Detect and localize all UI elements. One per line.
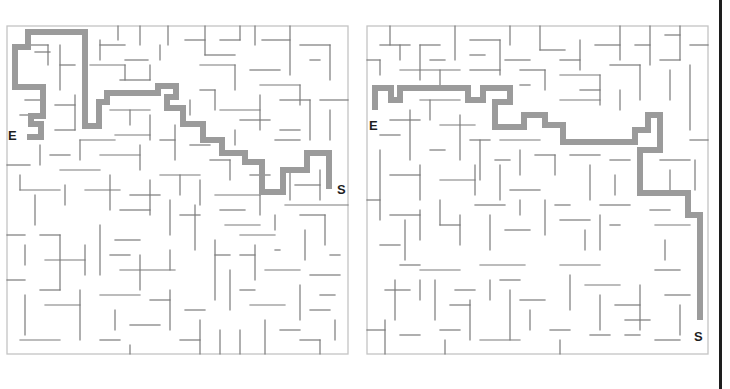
page-edge-bar — [719, 0, 722, 389]
maze-right-start-label: S — [694, 330, 703, 343]
maze-right-panel: E S — [0, 0, 730, 389]
maze-right-solution-path — [375, 88, 700, 320]
maze-right-end-label: E — [369, 119, 378, 132]
maze-right — [0, 0, 730, 389]
